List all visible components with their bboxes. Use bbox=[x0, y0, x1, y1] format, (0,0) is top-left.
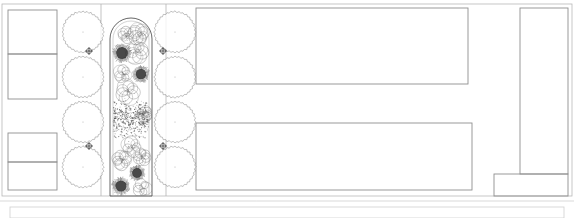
plan-canvas bbox=[0, 0, 574, 218]
landscape-plan-drawing: Landscape Site Plan bbox=[0, 0, 574, 218]
tree-row-west-2 bbox=[62, 56, 104, 98]
tree-row-east-2 bbox=[154, 56, 196, 98]
tree-row-east-4 bbox=[154, 146, 196, 188]
tree-row-west-3 bbox=[62, 101, 104, 143]
tree-row-west-1 bbox=[62, 11, 104, 53]
tree-row-east-3 bbox=[154, 101, 196, 143]
